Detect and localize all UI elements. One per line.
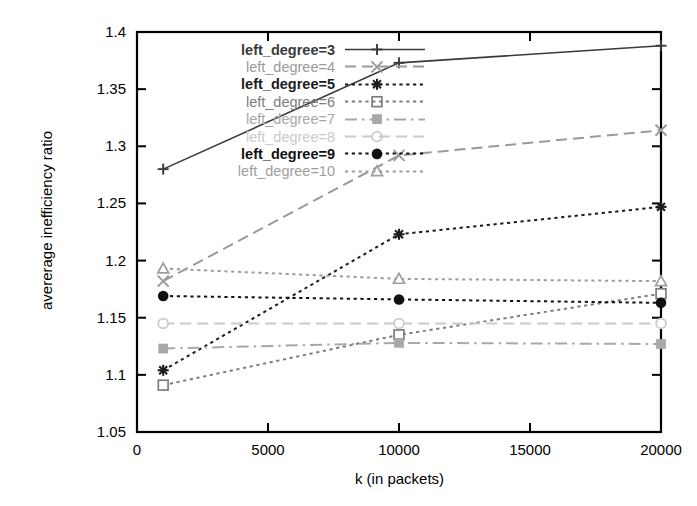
data-point-left-degree-8-1000 <box>158 319 168 329</box>
y-tick-label: 1.15 <box>60 309 126 326</box>
legend-item-left-degree-7[interactable]: left_degree=7 <box>185 111 427 128</box>
legend-label: left_degree=9 <box>185 146 343 162</box>
y-tick-label: 1.2 <box>60 252 126 269</box>
data-point-left-degree-6-20000 <box>656 289 666 299</box>
legend-label: left_degree=7 <box>185 111 343 127</box>
x-axis-label: k (in packets) <box>137 470 662 487</box>
data-point-left-degree-5-10000 <box>394 229 405 240</box>
legend-marker-sample <box>343 163 427 180</box>
legend-item-left-degree-6[interactable]: left_degree=6 <box>185 93 427 110</box>
legend-item-left-degree-4[interactable]: left_degree=4 <box>185 58 427 75</box>
data-point-left-degree-6-1000 <box>158 380 168 390</box>
data-point-left-degree-5-20000 <box>656 201 667 212</box>
data-point-left-degree-8-20000 <box>656 319 666 329</box>
legend-item-left-degree-9[interactable]: left_degree=9 <box>185 145 427 162</box>
data-point-left-degree-3-20000 <box>656 40 667 51</box>
y-tick-label: 1.3 <box>60 137 126 154</box>
legend-marker-sample <box>343 58 427 75</box>
legend-label: left_degree=3 <box>185 42 343 58</box>
data-point-left-degree-8-10000 <box>394 319 404 329</box>
data-point-left-degree-7-1000 <box>158 344 168 354</box>
data-point-left-degree-9-10000 <box>394 294 405 305</box>
data-point-left-degree-10-1000 <box>158 263 169 273</box>
y-tick-label: 1.05 <box>60 423 126 440</box>
x-tick-label: 0 <box>92 441 182 458</box>
x-tick-label: 5000 <box>223 441 313 458</box>
legend-item-left-degree-8[interactable]: left_degree=8 <box>185 128 427 145</box>
series-line-left-degree-9 <box>163 296 661 303</box>
legend-marker-sample <box>343 111 427 128</box>
legend-label: left_degree=8 <box>185 129 343 145</box>
legend-label: left_degree=4 <box>185 59 343 75</box>
data-point-left-degree-7-20000 <box>656 339 666 349</box>
legend-marker-sample <box>343 93 427 110</box>
y-tick-label: 1.35 <box>60 80 126 97</box>
legend-label: left_degree=6 <box>185 94 343 110</box>
y-tick-label: 1.25 <box>60 194 126 211</box>
legend-item-left-degree-5[interactable]: left_degree=5 <box>185 76 427 93</box>
legend-marker-sample <box>343 128 427 145</box>
data-point-left-degree-10-20000 <box>656 276 667 286</box>
series-line-left-degree-6 <box>163 294 661 385</box>
x-tick-label: 15000 <box>485 441 575 458</box>
data-point-left-degree-3-1000 <box>158 164 169 175</box>
data-point-left-degree-5-1000 <box>158 365 169 376</box>
legend-item-left-degree-10[interactable]: left_degree=10 <box>185 163 427 180</box>
legend-item-left-degree-3[interactable]: left_degree=3 <box>185 41 427 58</box>
legend-label: left_degree=5 <box>185 76 343 92</box>
chart-figure: avererage inefficiency ratio k (in packe… <box>0 0 697 506</box>
x-tick-label: 20000 <box>616 441 697 458</box>
y-tick-label: 1.4 <box>60 23 126 40</box>
data-point-left-degree-9-20000 <box>656 298 667 309</box>
legend-marker-sample <box>343 41 427 58</box>
data-point-left-degree-9-1000 <box>158 291 169 302</box>
series-line-left-degree-7 <box>163 343 661 349</box>
legend-label: left_degree=10 <box>185 163 343 179</box>
y-axis-label: avererage inefficiency ratio <box>38 101 55 341</box>
legend-marker-sample <box>343 145 427 162</box>
data-point-left-degree-4-1000 <box>158 276 169 287</box>
x-tick-label: 10000 <box>354 441 444 458</box>
legend-marker-sample <box>343 76 427 93</box>
data-point-left-degree-7-10000 <box>394 338 404 348</box>
series-line-left-degree-10 <box>163 269 661 282</box>
y-tick-label: 1.1 <box>60 366 126 383</box>
